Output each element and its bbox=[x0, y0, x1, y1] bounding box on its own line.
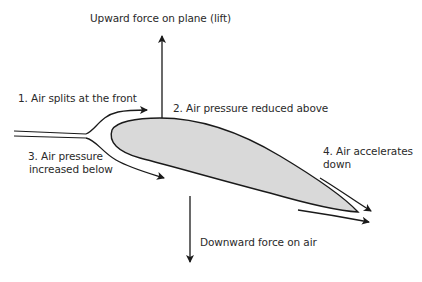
step3-label-line1: 3. Air pressure bbox=[28, 150, 103, 163]
step2-label: 2. Air pressure reduced above bbox=[173, 102, 328, 115]
lift-label: Upward force on plane (lift) bbox=[90, 12, 231, 25]
incoming-streamline-bottom bbox=[14, 136, 86, 138]
incoming-streamline-top bbox=[14, 131, 86, 134]
step4-label-line2: down bbox=[323, 158, 351, 171]
airfoil-wing-shape bbox=[111, 118, 358, 212]
step4-label-line1: 4. Air accelerates bbox=[323, 145, 413, 158]
downward-force-label: Downward force on air bbox=[200, 236, 317, 249]
airfoil-diagram: Upward force on plane (lift) 1. Air spli… bbox=[0, 0, 422, 282]
step3-label-line2: increased below bbox=[29, 163, 113, 176]
step1-label: 1. Air splits at the front bbox=[18, 92, 137, 105]
